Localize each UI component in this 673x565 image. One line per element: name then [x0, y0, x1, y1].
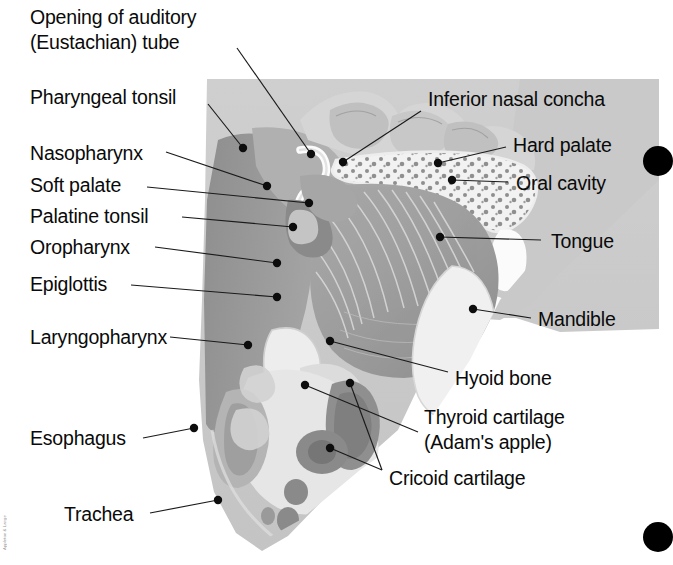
dot-esophagus: [190, 424, 198, 432]
label-thyroid-cartilage-line1: Thyroid cartilage: [424, 406, 565, 428]
dot-thyroid-cartilage: [301, 381, 309, 389]
label-oropharynx: Oropharynx: [30, 236, 130, 258]
dot-epiglottis: [273, 293, 281, 301]
label-inferior-nasal-concha: Inferior nasal concha: [428, 88, 605, 110]
label-pharyngeal-tonsil: Pharyngeal tonsil: [30, 86, 176, 108]
dot-cricoid-cartilage-2: [346, 379, 354, 387]
dot-tongue: [436, 233, 444, 241]
dot-hyoid-bone: [326, 337, 334, 345]
label-hyoid-bone: Hyoid bone: [455, 367, 552, 389]
label-hard-palate: Hard palate: [513, 134, 612, 156]
label-eustachian-tube-line2: (Eustachian) tube: [30, 31, 179, 53]
dot-mandible: [469, 305, 477, 313]
tracheal-ring-1: [284, 479, 308, 505]
dot-hard-palate: [434, 159, 442, 167]
label-tongue: Tongue: [551, 230, 614, 252]
tracheal-ring-3: [261, 507, 275, 525]
registration-dot-top: [643, 146, 673, 176]
label-oral-cavity: Oral cavity: [516, 172, 606, 194]
label-nasopharynx: Nasopharynx: [30, 142, 143, 164]
dot-pharyngeal-tonsil: [239, 144, 247, 152]
dot-inferior-nasal-concha: [339, 158, 347, 166]
dot-oral-cavity: [448, 176, 456, 184]
dot-trachea: [214, 496, 222, 504]
label-cricoid-cartilage: Cricoid cartilage: [389, 467, 525, 489]
label-trachea: Trachea: [64, 503, 134, 525]
dot-eustachian-tube: [307, 150, 315, 158]
label-mandible: Mandible: [538, 308, 616, 330]
label-thyroid-cartilage-line2: (Adam's apple): [424, 431, 552, 453]
dot-nasopharynx: [263, 182, 271, 190]
label-esophagus: Esophagus: [30, 427, 126, 449]
dot-soft-palate: [305, 199, 313, 207]
label-epiglottis: Epiglottis: [30, 273, 108, 295]
label-soft-palate: Soft palate: [30, 174, 121, 196]
registration-dot-bottom: [643, 522, 673, 552]
label-palatine-tonsil: Palatine tonsil: [30, 205, 148, 227]
dot-oropharynx: [273, 259, 281, 267]
dot-cricoid-cartilage-1: [326, 444, 334, 452]
label-laryngopharynx: Laryngopharynx: [30, 326, 167, 348]
dot-laryngopharynx: [244, 341, 252, 349]
label-eustachian-tube-line1: Opening of auditory: [30, 6, 197, 28]
dot-palatine-tonsil: [289, 223, 297, 231]
